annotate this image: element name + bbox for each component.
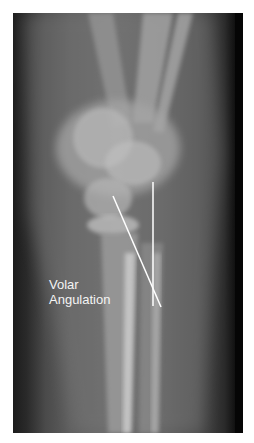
label-line-2: Angulation — [49, 292, 110, 307]
wrist-xray-image: Volar Angulation — [13, 13, 243, 433]
annotation-lines — [13, 13, 243, 433]
angulation-line — [113, 196, 161, 307]
volar-angulation-label: Volar Angulation — [49, 277, 110, 307]
label-line-1: Volar — [49, 277, 110, 292]
